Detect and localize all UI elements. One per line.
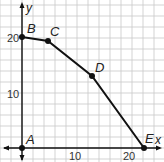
x-tick-20: 20: [123, 150, 135, 162]
point-a-label: A: [25, 132, 35, 147]
y-axis-label: y: [25, 1, 33, 15]
point-b-label: B: [27, 21, 36, 36]
point-e-label: E: [145, 131, 154, 146]
point-a-marker: [19, 145, 25, 151]
point-c-label: C: [50, 24, 60, 39]
coordinate-plane: y x 10 20 10 20 A B C D E: [0, 0, 164, 162]
grid-lines: [0, 0, 164, 162]
x-tick-10: 10: [69, 150, 81, 162]
y-tick-20: 20: [7, 32, 19, 44]
data-line: [22, 37, 144, 148]
x-axis-label: x: [154, 133, 162, 147]
point-b-marker: [19, 34, 25, 40]
y-axis-arrow-down-icon: [20, 155, 25, 161]
y-tick-10: 10: [7, 88, 19, 100]
point-d-label: D: [95, 60, 104, 75]
x-axis-arrow-left-icon: [3, 146, 9, 151]
